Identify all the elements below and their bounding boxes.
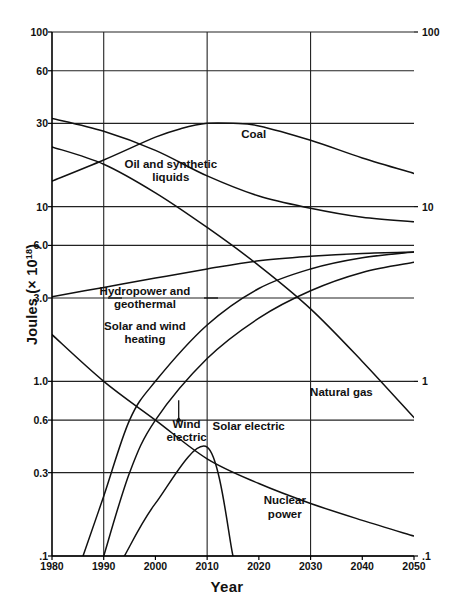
y-axis-tick-label-text: 3.0 bbox=[33, 292, 48, 304]
y-axis-tick-label-text: 30 bbox=[36, 117, 48, 129]
plot-area bbox=[0, 0, 454, 609]
x-axis-title: Year bbox=[0, 578, 454, 595]
x-axis-tick-label: 2020 bbox=[247, 560, 270, 572]
curve-label-oil-and-synthetic: Oil and synthetic liquids bbox=[124, 158, 217, 184]
y-axis-tick-label-text: 100 bbox=[30, 26, 48, 38]
curve-label-nuclear: Nuclear power bbox=[264, 494, 306, 520]
y-axis-tick-label-right-text: 1 bbox=[422, 375, 428, 387]
y-axis-tick-label-text: 1.0 bbox=[33, 375, 48, 387]
curve-solar-and-wind-heating bbox=[52, 335, 414, 536]
curve-label-wind: Wind electric bbox=[166, 418, 206, 444]
x-axis-tick-label: 2000 bbox=[144, 560, 167, 572]
x-axis-tick-label: 2010 bbox=[195, 560, 218, 572]
y-axis-tick-label-text: 0.6 bbox=[33, 414, 48, 426]
annotation-leaders bbox=[108, 298, 218, 422]
y-axis-title-exponent: 18 bbox=[24, 249, 34, 259]
curve-label-natural-gas: Natural gas bbox=[310, 386, 373, 399]
y-axis-tick-label-text: 6.0 bbox=[33, 239, 48, 251]
x-axis-tick-label: 1980 bbox=[40, 560, 63, 572]
y-axis-tick-label-right-text: 100 bbox=[422, 26, 440, 38]
curve-nuclear-power bbox=[124, 446, 233, 556]
x-axis-tick-label: 2040 bbox=[351, 560, 374, 572]
curve-label-coal: Coal bbox=[241, 128, 266, 141]
y-axis-tick-label-text: 60 bbox=[36, 65, 48, 77]
energy-projection-chart: Joules (× 1018) Year 1006030106.03.01.00… bbox=[0, 0, 454, 609]
curve-label-hydropower-and: Hydropower and geothermal bbox=[100, 285, 191, 311]
curve-label-solar-and-wind: Solar and wind heating bbox=[104, 320, 186, 346]
y-axis-tick-label-text: 0.3 bbox=[33, 467, 48, 479]
curve-label-solar-electric: Solar electric bbox=[213, 420, 285, 433]
x-axis-tick-label: 2030 bbox=[299, 560, 322, 572]
x-axis-tick-label: 1990 bbox=[92, 560, 115, 572]
x-axis-tick-label: 2050 bbox=[402, 560, 425, 572]
y-axis-tick-label-right-text: 10 bbox=[422, 201, 434, 213]
y-axis-tick-label-text: 10 bbox=[36, 201, 48, 213]
